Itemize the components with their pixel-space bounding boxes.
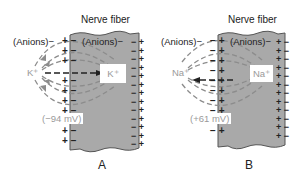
panel-a-right-membrane-charges: − + − + − + − + − + − + − + − + − + − + …	[131, 38, 147, 149]
panel-a-inside-anions-sign: −	[117, 36, 123, 47]
panel-b-title: Nerve fiber	[228, 14, 277, 25]
panel-b-inside-anions-sign: −	[265, 36, 271, 47]
charge-row: + −	[62, 106, 78, 116]
panel-b-outside-anions-sign: −	[196, 36, 202, 47]
panel-a-ion-inside: K⁺	[100, 64, 126, 83]
charge-row: − +	[210, 106, 226, 116]
panel-b-ion-inside: Na⁺	[250, 65, 273, 82]
panel-b-outside-anions-label: (Anions)	[161, 36, 196, 47]
panel-a-label: A	[98, 158, 106, 172]
panel-b-ion-outside: Na⁺	[172, 67, 189, 78]
panel-b-outside-anions: (Anions)−	[161, 36, 202, 47]
nerve-fiber-b-body	[218, 31, 285, 149]
panel-a-outside-anions-label: (Anions)	[13, 36, 48, 47]
charge-row: + −	[62, 56, 78, 66]
charge-row: − +	[131, 140, 147, 149]
panel-b-inside-anions: (Anions)−	[230, 36, 271, 47]
panel-a-inside-anions: (Anions)−	[82, 36, 123, 47]
panel-a-title: Nerve fiber	[81, 14, 130, 25]
diagram-canvas	[0, 0, 306, 179]
panel-b-right-membrane-charges: + − + − + − + − + − + − + − + − + − + − …	[276, 38, 292, 140]
panel-b-left-membrane-charges: − + − + − + − + − + − + − + − + + − +	[210, 36, 226, 136]
panel-a-ion-outside: K⁺	[27, 67, 38, 78]
panel-b-label: B	[245, 158, 253, 172]
charge-row: + −	[62, 136, 78, 146]
charge-row: − +	[210, 126, 226, 136]
charge-row: + −	[276, 132, 292, 141]
panel-b-inside-anions-label: (Anions)	[230, 36, 265, 47]
nerve-fiber-a-body	[70, 31, 139, 152]
panel-a-left-membrane-charges: + − + − + − + + − + − + − + − + + − + −	[62, 36, 78, 146]
panel-a-inside-anions-label: (Anions)	[82, 36, 117, 47]
panel-a-outside-anions: (Anions)−	[13, 36, 54, 47]
panel-a-outside-anions-sign: −	[48, 36, 54, 47]
